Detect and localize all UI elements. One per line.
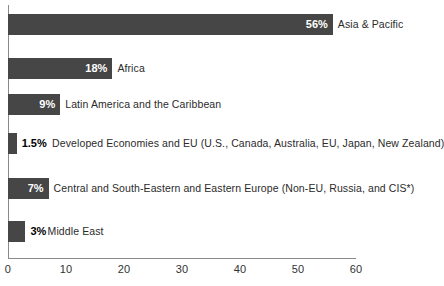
bar-row: 3%Middle East xyxy=(8,221,411,242)
x-axis-tick-60: 60 xyxy=(341,262,371,276)
bar-category-label: Middle East xyxy=(48,221,104,242)
bar-row: 18%Africa xyxy=(8,58,411,79)
bar-value-label: 3% xyxy=(25,221,46,242)
x-axis-tick-40: 40 xyxy=(225,262,255,276)
bar-value-label: 9% xyxy=(8,94,60,115)
bar-category-label: Africa xyxy=(117,58,144,79)
x-axis-tick-50: 50 xyxy=(283,262,313,276)
x-axis-tick-0: 0 xyxy=(0,262,23,276)
bar-rect xyxy=(8,221,25,242)
bar-category-label: Developed Economies and EU (U.S., Canada… xyxy=(52,133,444,154)
x-axis-tick-10: 10 xyxy=(51,262,81,276)
x-axis-line xyxy=(8,258,356,259)
bar-category-label: Latin America and the Caribbean xyxy=(65,94,221,115)
x-axis-tick-20: 20 xyxy=(109,262,139,276)
bar-row: 1.5%Developed Economies and EU (U.S., Ca… xyxy=(8,133,411,154)
bar-rect xyxy=(8,133,17,154)
bar-value-label: 56% xyxy=(8,14,333,35)
bar-value-label: 7% xyxy=(8,178,49,199)
bar-value-label: 1.5% xyxy=(17,133,47,154)
bar-category-label: Asia & Pacific xyxy=(338,14,404,35)
bar-value-label: 18% xyxy=(8,58,112,79)
bar-category-label: Central and South-Eastern and Eastern Eu… xyxy=(54,178,415,199)
bar-row: 7%Central and South-Eastern and Eastern … xyxy=(8,178,411,199)
x-axis-tick-30: 30 xyxy=(167,262,197,276)
bar-row: 9%Latin America and the Caribbean xyxy=(8,94,411,115)
bar-row: 56%Asia & Pacific xyxy=(8,14,411,35)
